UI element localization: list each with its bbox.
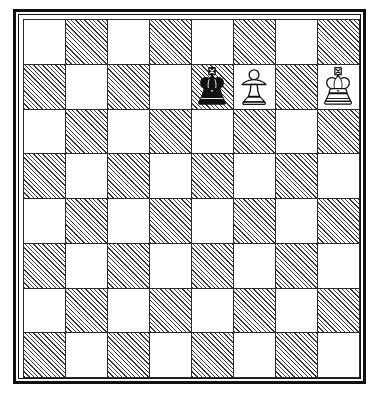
board-square-c6[interactable] [108, 110, 150, 155]
board-square-g7[interactable] [276, 65, 318, 110]
board-square-g4[interactable] [276, 199, 318, 244]
board-square-a4[interactable] [24, 199, 66, 244]
board-square-h7[interactable] [318, 65, 360, 110]
board-square-a7[interactable] [24, 65, 66, 110]
board-outer-frame [13, 9, 366, 384]
board-square-c4[interactable] [108, 199, 150, 244]
board-square-f7[interactable] [234, 65, 276, 110]
board-square-e4[interactable] [192, 199, 234, 244]
board-square-c2[interactable] [108, 289, 150, 334]
board-square-h2[interactable] [318, 289, 360, 334]
board-square-d1[interactable] [150, 333, 192, 378]
board-square-b6[interactable] [66, 110, 108, 155]
board-square-c8[interactable] [108, 20, 150, 65]
board-square-h4[interactable] [318, 199, 360, 244]
board-square-f2[interactable] [234, 289, 276, 334]
board-square-c3[interactable] [108, 244, 150, 289]
board-square-e7[interactable] [192, 65, 234, 110]
chess-diagram [0, 0, 377, 394]
board-square-c5[interactable] [108, 154, 150, 199]
board-square-e8[interactable] [192, 20, 234, 65]
board-square-a1[interactable] [24, 333, 66, 378]
board-square-g1[interactable] [276, 333, 318, 378]
board-square-d4[interactable] [150, 199, 192, 244]
board-square-g3[interactable] [276, 244, 318, 289]
black-king[interactable] [192, 65, 233, 109]
board-square-b5[interactable] [66, 154, 108, 199]
board-square-e5[interactable] [192, 154, 234, 199]
board-square-d2[interactable] [150, 289, 192, 334]
board-square-b8[interactable] [66, 20, 108, 65]
board-square-g5[interactable] [276, 154, 318, 199]
board-square-b7[interactable] [66, 65, 108, 110]
board-square-h5[interactable] [318, 154, 360, 199]
board-square-b1[interactable] [66, 333, 108, 378]
board-square-a5[interactable] [24, 154, 66, 199]
board-square-b2[interactable] [66, 289, 108, 334]
board-square-e3[interactable] [192, 244, 234, 289]
board-square-c7[interactable] [108, 65, 150, 110]
board-square-d6[interactable] [150, 110, 192, 155]
board-inner-frame [18, 14, 361, 379]
board-square-g6[interactable] [276, 110, 318, 155]
board-square-e1[interactable] [192, 333, 234, 378]
board-square-h8[interactable] [318, 20, 360, 65]
board-square-f6[interactable] [234, 110, 276, 155]
board-square-f8[interactable] [234, 20, 276, 65]
board-square-g2[interactable] [276, 289, 318, 334]
board-square-h1[interactable] [318, 333, 360, 378]
board-square-d7[interactable] [150, 65, 192, 110]
board-square-a2[interactable] [24, 289, 66, 334]
board-square-h6[interactable] [318, 110, 360, 155]
board-square-c1[interactable] [108, 333, 150, 378]
board-square-d8[interactable] [150, 20, 192, 65]
white-pawn[interactable] [234, 65, 275, 109]
white-king[interactable] [318, 65, 359, 109]
board-square-f1[interactable] [234, 333, 276, 378]
board-square-a8[interactable] [24, 20, 66, 65]
board-square-a3[interactable] [24, 244, 66, 289]
board-square-h3[interactable] [318, 244, 360, 289]
board-square-d3[interactable] [150, 244, 192, 289]
board-square-b3[interactable] [66, 244, 108, 289]
board-square-b4[interactable] [66, 199, 108, 244]
board-square-e2[interactable] [192, 289, 234, 334]
board-square-f5[interactable] [234, 154, 276, 199]
chess-board-grid [23, 19, 360, 378]
board-square-a6[interactable] [24, 110, 66, 155]
board-square-f4[interactable] [234, 199, 276, 244]
board-square-g8[interactable] [276, 20, 318, 65]
board-square-f3[interactable] [234, 244, 276, 289]
board-square-e6[interactable] [192, 110, 234, 155]
board-square-d5[interactable] [150, 154, 192, 199]
